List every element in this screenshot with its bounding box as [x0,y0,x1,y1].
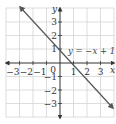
x-tick-label: 3 [98,67,104,77]
coordinate-plane: −3 −2 −1 1 2 3 3 2 1 −1 −2 −3 0 x y y = … [0,0,116,124]
y-axis-label: y [51,4,58,14]
y-tick-label: −3 [44,99,58,109]
x-tick-label: −2 [20,67,33,77]
x-tick-label: 2 [84,67,90,77]
x-tick-label: 1 [71,67,77,77]
y-tick-label: 3 [51,17,57,27]
x-axis-label: x [110,65,115,75]
equation-label: y = −x + 1 [67,46,115,56]
y-tick-label: −2 [44,86,57,96]
x-tick-label: −3 [6,67,20,77]
y-tick-label: 2 [51,31,57,41]
origin-label: 0 [50,65,56,75]
y-tick-label: 1 [51,44,57,54]
line-y-equals-neg-x-plus-1 [21,8,112,107]
